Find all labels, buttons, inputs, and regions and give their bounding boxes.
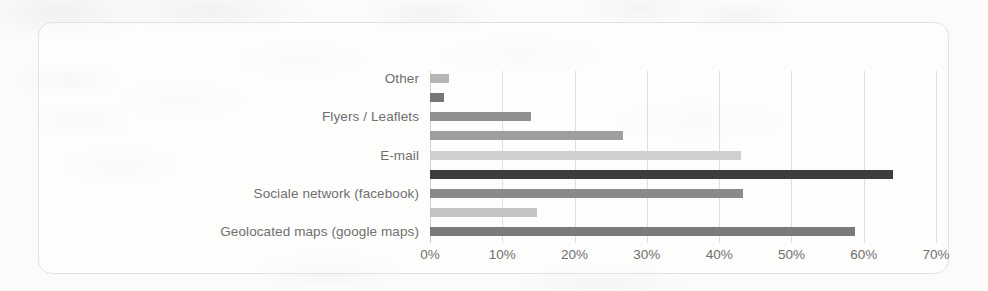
x-tick-label: 10% [489,247,516,262]
x-tick-label: 0% [420,247,440,262]
x-tick-label: 70% [922,247,949,262]
bar [430,131,623,140]
bar [430,227,855,236]
chart-frame: OtherFlyers / LeafletsE-mailSociale netw… [38,22,949,274]
x-tick-label: 20% [561,247,588,262]
category-label: Other [385,72,419,85]
bar [430,170,893,179]
category-label: Sociale network (facebook) [254,187,419,200]
x-tick-label: 50% [778,247,805,262]
x-tick-label: 30% [633,247,660,262]
bar [430,74,449,83]
gridline-60 [864,71,865,243]
x-tick-label: 40% [706,247,733,262]
category-label: Geolocated maps (google maps) [220,225,419,238]
plot-area [430,71,936,243]
gridline-50 [791,71,792,243]
bar [430,151,741,160]
category-label: E-mail [380,149,419,162]
bar [430,208,537,217]
x-tick-label: 60% [850,247,877,262]
category-axis-labels: OtherFlyers / LeafletsE-mailSociale netw… [79,71,419,243]
gridline-70 [936,71,937,243]
value-axis-labels: 0%10%20%30%40%50%60%70% [430,247,936,267]
bar [430,189,743,198]
bar [430,112,531,121]
bar [430,93,444,102]
category-label: Flyers / Leaflets [322,110,419,123]
